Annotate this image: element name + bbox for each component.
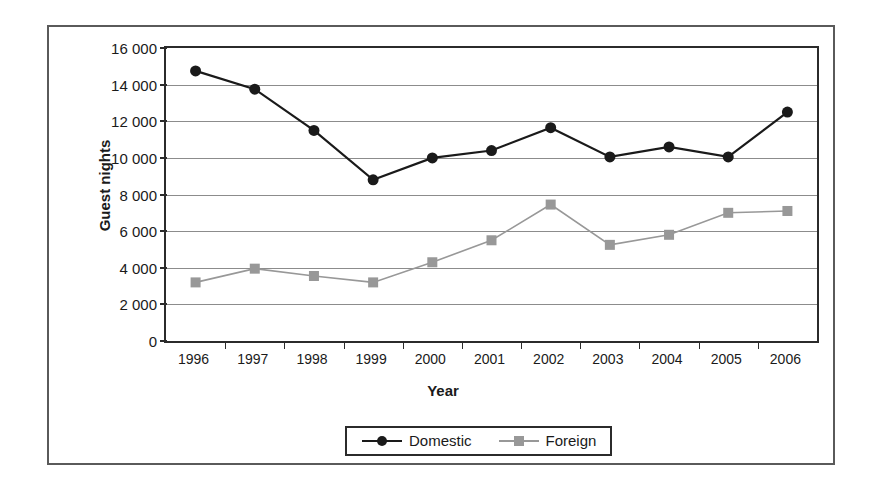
data-point-domestic-1997	[249, 84, 260, 95]
x-axis-tick-mark	[580, 341, 581, 349]
x-axis-tick-mark	[462, 341, 463, 349]
data-series-layer	[166, 48, 817, 341]
data-point-foreign-2004	[664, 230, 674, 240]
y-axis-tick-label: 12 000	[111, 113, 157, 130]
plot-area: 02 0004 0006 0008 00010 00012 00014 0001…	[164, 46, 819, 343]
y-axis-tick-label: 0	[149, 333, 157, 350]
data-point-domestic-2001	[486, 145, 497, 156]
data-point-foreign-2003	[605, 240, 615, 250]
y-axis-tick-label: 14 000	[111, 76, 157, 93]
legend-square-marker-icon	[498, 434, 540, 448]
y-axis-tick-label: 4 000	[119, 259, 157, 276]
x-axis-tick-label: 2003	[592, 351, 623, 367]
series-line-domestic	[196, 71, 788, 180]
y-axis-title: Guest nights	[96, 116, 113, 256]
x-axis-tick-label: 1996	[178, 351, 209, 367]
data-point-domestic-2002	[545, 122, 556, 133]
data-point-domestic-2004	[664, 141, 675, 152]
data-point-foreign-2002	[546, 200, 556, 210]
data-point-domestic-2005	[723, 151, 734, 162]
legend-label: Domestic	[409, 432, 472, 449]
data-point-foreign-1998	[309, 271, 319, 281]
legend-entry-foreign: Foreign	[498, 432, 597, 449]
data-point-domestic-1996	[190, 65, 201, 76]
chart-figure: Guest nights Year 02 0004 0006 0008 0001…	[47, 25, 835, 465]
data-point-domestic-1999	[368, 174, 379, 185]
x-axis-tick-mark	[403, 341, 404, 349]
x-axis-tick-label: 2000	[415, 351, 446, 367]
x-axis-tick-mark	[639, 341, 640, 349]
data-point-domestic-1998	[308, 125, 319, 136]
data-point-domestic-2003	[604, 151, 615, 162]
legend-entry-domestic: Domestic	[361, 432, 472, 449]
x-axis-tick-label: 2002	[533, 351, 564, 367]
data-point-domestic-2000	[427, 152, 438, 163]
x-axis-tick-label: 2006	[770, 351, 801, 367]
x-axis-tick-label: 1998	[296, 351, 327, 367]
data-point-foreign-2000	[427, 257, 437, 267]
y-axis-tick-label: 10 000	[111, 149, 157, 166]
y-axis-tick-label: 16 000	[111, 40, 157, 57]
data-point-foreign-1997	[250, 264, 260, 274]
x-axis-tick-mark	[521, 341, 522, 349]
y-axis-tick-label: 2 000	[119, 296, 157, 313]
x-axis-title: Year	[49, 382, 837, 399]
x-axis-tick-mark	[284, 341, 285, 349]
legend-label: Foreign	[546, 432, 597, 449]
x-axis-tick-label: 1999	[356, 351, 387, 367]
data-point-domestic-2006	[782, 107, 793, 118]
x-axis-tick-label: 2004	[651, 351, 682, 367]
x-axis-tick-label: 1997	[237, 351, 268, 367]
x-axis-tick-mark	[225, 341, 226, 349]
legend-circle-marker-icon	[361, 434, 403, 448]
y-axis-tick-label: 8 000	[119, 186, 157, 203]
x-axis-tick-mark	[758, 341, 759, 349]
data-point-foreign-1999	[368, 277, 378, 287]
data-point-foreign-2005	[723, 208, 733, 218]
x-axis-tick-label: 2005	[711, 351, 742, 367]
data-point-foreign-2006	[782, 206, 792, 216]
x-axis-tick-mark	[344, 341, 345, 349]
chart-legend: DomesticForeign	[345, 426, 612, 456]
data-point-foreign-1996	[191, 277, 201, 287]
x-axis-tick-label: 2001	[474, 351, 505, 367]
x-axis-tick-mark	[699, 341, 700, 349]
data-point-foreign-2001	[487, 235, 497, 245]
y-axis-tick-label: 6 000	[119, 223, 157, 240]
